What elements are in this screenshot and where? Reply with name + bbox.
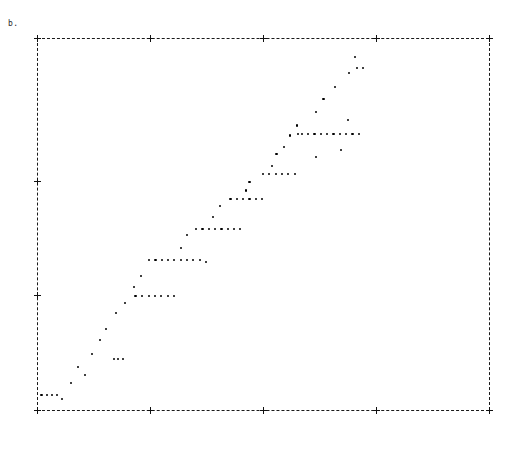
data-point — [347, 119, 349, 121]
data-point — [261, 198, 263, 200]
data-point — [173, 259, 175, 261]
data-point — [161, 259, 163, 261]
data-point — [283, 146, 285, 148]
data-point — [117, 358, 119, 360]
data-point — [219, 205, 221, 207]
data-point — [91, 353, 93, 355]
data-point — [358, 133, 360, 135]
data-point — [195, 228, 197, 230]
data-point — [351, 133, 353, 135]
data-point — [141, 295, 143, 297]
data-point — [307, 133, 309, 135]
data-point — [334, 86, 336, 88]
data-point — [173, 295, 175, 297]
data-point — [362, 67, 364, 69]
data-point — [233, 228, 235, 230]
data-point — [122, 358, 124, 360]
axis-left — [37, 38, 38, 410]
data-point — [275, 153, 277, 155]
data-point — [154, 295, 156, 297]
data-point — [51, 394, 53, 396]
data-point — [154, 259, 156, 261]
data-point — [124, 302, 126, 304]
axis-bottom — [37, 410, 489, 411]
data-point — [84, 374, 86, 376]
data-point — [320, 133, 322, 135]
panel-label: b. — [8, 19, 19, 28]
data-point — [186, 234, 188, 236]
data-point — [339, 133, 341, 135]
data-point — [140, 275, 142, 277]
data-point — [148, 259, 150, 261]
data-point — [105, 328, 107, 330]
data-point — [180, 247, 182, 249]
data-point — [315, 111, 317, 113]
data-point — [345, 133, 347, 135]
data-point — [186, 259, 188, 261]
data-point — [56, 394, 58, 396]
data-point — [255, 198, 257, 200]
data-point — [354, 56, 356, 58]
data-point — [356, 67, 358, 69]
data-point — [271, 165, 273, 167]
data-point — [281, 173, 283, 175]
data-point — [70, 382, 72, 384]
data-point — [236, 198, 238, 200]
data-point — [248, 198, 250, 200]
data-point — [340, 149, 342, 151]
data-point — [296, 124, 298, 126]
data-point — [289, 134, 291, 136]
data-point — [199, 259, 201, 261]
data-point — [229, 198, 231, 200]
data-point — [332, 133, 334, 135]
data-point — [322, 98, 324, 100]
data-point — [287, 173, 289, 175]
data-point — [245, 189, 247, 191]
data-point — [294, 173, 296, 175]
data-point — [214, 228, 216, 230]
data-point — [192, 259, 194, 261]
data-point — [180, 259, 182, 261]
data-point — [40, 394, 42, 396]
data-point — [239, 228, 241, 230]
data-point — [148, 295, 150, 297]
data-point — [167, 295, 169, 297]
data-point — [212, 216, 214, 218]
data-point — [315, 156, 317, 158]
data-point — [242, 198, 244, 200]
scatter-plot-figure: b. 00.250.50.75 — [0, 0, 512, 449]
plot-area: 00.250.50.75 — [37, 38, 489, 410]
data-point — [268, 173, 270, 175]
data-point — [46, 394, 48, 396]
data-point — [167, 259, 169, 261]
data-point — [61, 398, 63, 400]
data-point — [275, 173, 277, 175]
data-point — [313, 133, 315, 135]
data-point — [201, 228, 203, 230]
data-point — [227, 228, 229, 230]
data-point — [326, 133, 328, 135]
axis-right — [489, 38, 490, 410]
data-point — [133, 286, 135, 288]
data-point — [113, 358, 115, 360]
data-point — [220, 228, 222, 230]
data-point — [205, 261, 207, 263]
data-point — [348, 72, 350, 74]
data-point — [301, 133, 303, 135]
data-point — [99, 339, 101, 341]
data-point — [160, 295, 162, 297]
data-point — [262, 173, 264, 175]
data-point — [297, 133, 299, 135]
data-point — [134, 295, 136, 297]
data-point — [208, 228, 210, 230]
axis-top — [37, 38, 489, 39]
data-point — [77, 366, 79, 368]
data-point — [248, 181, 250, 183]
data-point — [115, 312, 117, 314]
